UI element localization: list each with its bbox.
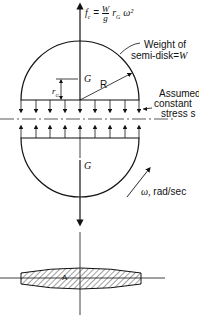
- centroid-label-top: G: [84, 74, 91, 84]
- angular-velocity-label: ω, rad/sec: [141, 187, 186, 197]
- omega-symbol: ω,: [141, 186, 151, 197]
- omega-unit: rad/sec: [153, 186, 186, 197]
- weight-var: W: [179, 50, 187, 61]
- stress-arrows-up: [21, 127, 139, 138]
- formula-lhs-sub: c: [88, 14, 91, 20]
- centrifugal-force-formula: fc = W g rG ω²: [85, 5, 133, 22]
- stress-arrows-down: [21, 100, 139, 111]
- rg-sub: G: [56, 93, 60, 98]
- formula-omega: ω²: [123, 7, 133, 18]
- centroid-label-bottom: G: [84, 161, 91, 171]
- formula-denominator: g: [102, 14, 110, 22]
- weight-label-line1: Weight of: [144, 40, 186, 50]
- weight-label-text: semi-disk=: [131, 50, 179, 61]
- disk-stress-diagram: fc = W g rG ω² Weight of semi-disk=W G r…: [0, 0, 199, 321]
- cross-section: [21, 268, 141, 289]
- formula-eq: =: [93, 7, 99, 18]
- weight-label-line2: semi-disk=W: [131, 51, 187, 61]
- stress-label-line3: stress s: [161, 109, 195, 119]
- formula-r-sub: G: [116, 14, 120, 20]
- rg-label: rG: [52, 86, 59, 101]
- area-label: A: [62, 273, 67, 283]
- radius-label: R: [100, 80, 107, 90]
